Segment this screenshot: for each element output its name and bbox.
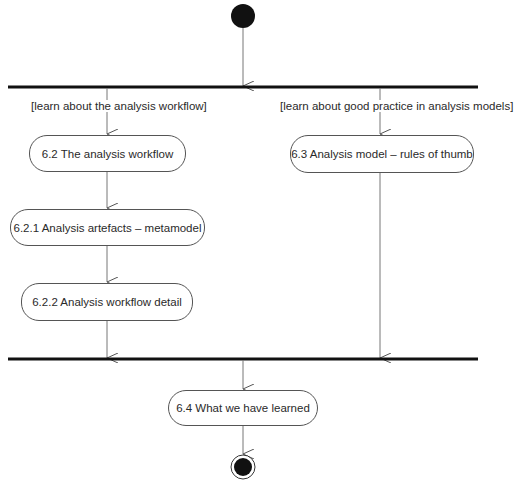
initial-node-icon <box>231 4 255 28</box>
activity-6-2[interactable]: 6.2 The analysis workflow <box>29 135 186 172</box>
activity-6-2-1[interactable]: 6.2.1 Analysis artefacts – metamodel <box>10 209 205 246</box>
activity-6-3-label: 6.3 Analysis model – rules of thumb <box>291 148 473 160</box>
activity-6-2-2[interactable]: 6.2.2 Analysis workflow detail <box>21 283 193 321</box>
activity-6-4[interactable]: 6.4 What we have learned <box>168 390 318 426</box>
guard-right-label: [learn about good practice in analysis m… <box>279 100 514 112</box>
activity-6-2-1-label: 6.2.1 Analysis artefacts – metamodel <box>14 222 202 234</box>
activity-6-3[interactable]: 6.3 Analysis model – rules of thumb <box>290 135 474 173</box>
fork-bar <box>8 86 478 89</box>
activity-6-2-2-label: 6.2.2 Analysis workflow detail <box>32 296 182 308</box>
guard-left-label: [learn about the analysis workflow] <box>30 100 208 112</box>
activity-6-4-label: 6.4 What we have learned <box>176 402 310 414</box>
final-node-inner-icon <box>234 458 252 476</box>
activity-6-2-label: 6.2 The analysis workflow <box>42 148 173 160</box>
